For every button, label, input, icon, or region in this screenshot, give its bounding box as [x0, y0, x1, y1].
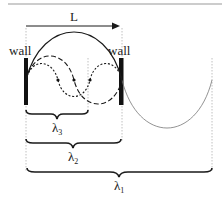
- brace-lambda-3: [26, 110, 88, 119]
- lambda-3-label: λ3: [52, 120, 62, 137]
- wave-lambda-1-extension: [122, 80, 212, 128]
- brace-lambda-2: [26, 139, 121, 148]
- left-wall: [24, 58, 28, 105]
- length-label: L: [70, 9, 78, 24]
- standing-wave-diagram: L wall wall λ3 λ2 λ1: [0, 0, 222, 205]
- brace-lambda-1: [27, 168, 212, 177]
- left-wall-label: wall: [9, 43, 32, 58]
- lambda-2-label: λ2: [68, 149, 78, 166]
- lambda-1-label: λ1: [114, 178, 124, 195]
- node-dots: [56, 78, 91, 81]
- arrowhead-icon: [112, 23, 120, 30]
